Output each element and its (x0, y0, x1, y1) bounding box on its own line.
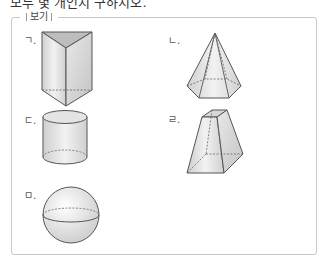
sphere-icon (41, 185, 101, 245)
square-frustum-icon (185, 109, 245, 175)
example-box-title: 보기 (30, 10, 48, 24)
cylinder-icon (41, 109, 89, 167)
item-marker-e: ㅁ. (24, 187, 36, 202)
label-tick-right (51, 13, 52, 21)
item-marker-a: ㄱ. (24, 32, 36, 47)
item-marker-c: ㄷ. (24, 112, 36, 127)
label-tick-left (26, 13, 27, 21)
item-marker-d: ㄹ. (168, 111, 180, 126)
triangular-prism-icon (40, 30, 94, 110)
hexagonal-pyramid-icon (185, 31, 245, 101)
item-marker-b: ㄴ. (168, 32, 180, 47)
example-box-label: 보기 (20, 10, 58, 24)
